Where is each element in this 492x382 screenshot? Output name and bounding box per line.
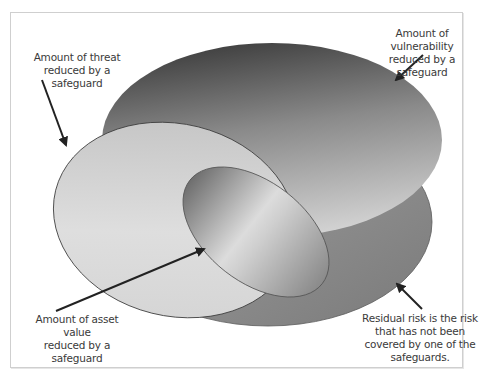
- threat-label: Amount of threat reduced by a safeguard: [22, 51, 132, 90]
- residual-label-line4: safeguards.: [360, 351, 480, 364]
- residual-arrow: [397, 284, 422, 309]
- residual-label-line1: Residual risk is the risk: [360, 312, 480, 325]
- asset-label: Amount of asset value reduced by a safeg…: [22, 313, 132, 365]
- vulnerability-label: Amount of vulnerability reduced by a saf…: [363, 27, 481, 79]
- asset-label-line2: reduced by a safeguard: [22, 339, 132, 365]
- residual-label-line2: that has not been: [360, 325, 480, 338]
- residual-risk-label: Residual risk is the risk that has not b…: [360, 312, 480, 364]
- asset-label-line1: Amount of asset value: [22, 313, 132, 339]
- vulnerability-label-line1: Amount of vulnerability: [363, 27, 481, 53]
- threat-label-line1: Amount of threat: [22, 51, 132, 64]
- vulnerability-label-line2: reduced by a safeguard: [363, 53, 481, 79]
- residual-label-line3: covered by one of the: [360, 338, 480, 351]
- threat-label-line2: reduced by a safeguard: [22, 64, 132, 90]
